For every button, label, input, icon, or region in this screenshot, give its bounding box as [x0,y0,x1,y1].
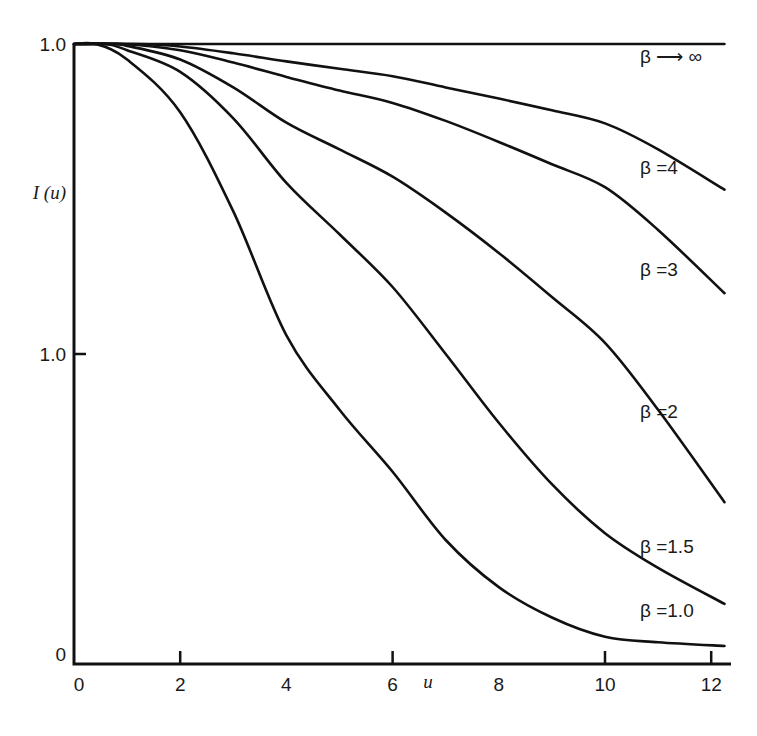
series-label: β =1.5 [640,536,694,557]
x-tick-label: 4 [281,674,292,695]
series-label: β =1.0 [640,600,694,621]
series-label: β =2 [640,401,678,422]
series-label: β ⟶ ∞ [640,46,702,67]
y-tick-label: 1.0 [40,344,66,365]
x-tick-label: 8 [494,674,505,695]
intensity-chart: 024681012 01.01.0 β ⟶ ∞β =4β =3β =2β =1.… [0,0,757,736]
x-axis-ticks: 024681012 [74,651,722,695]
x-tick-label: 12 [701,674,722,695]
x-tick-label: 10 [594,674,615,695]
curve-3 [74,44,725,294]
series-label: β =4 [640,157,678,178]
y-tick-label: 0 [55,644,66,665]
series-label: β =3 [640,259,678,280]
x-tick-label: 6 [387,674,398,695]
curves-group [74,43,725,646]
x-tick-label: 0 [74,674,85,695]
y-axis-title: I (u) [32,182,66,204]
curve-1-5 [74,44,725,604]
series-labels: β ⟶ ∞β =4β =3β =2β =1.5β =1.0 [640,46,702,621]
y-tick-label: 1.0 [40,34,66,55]
y-axis-ticks: 01.01.0 [40,34,86,665]
x-axis-title: u [423,671,433,692]
x-tick-label: 2 [175,674,186,695]
curve-2 [74,44,725,502]
